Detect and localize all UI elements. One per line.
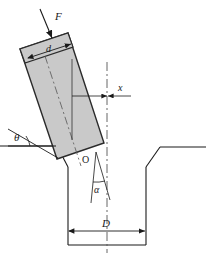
pivot-point-label: O xyxy=(82,154,89,165)
alpha-left-ray xyxy=(91,152,96,203)
incline-angle-label: θ xyxy=(14,131,20,143)
right-chamfer-line xyxy=(146,147,160,167)
D-dimension-annotation: D xyxy=(69,217,145,231)
figure-canvas: F d x θ O xyxy=(0,0,211,256)
groove-width-label: D xyxy=(101,217,110,229)
technical-diagram: F d x θ O xyxy=(0,0,211,256)
alpha-arc xyxy=(93,181,105,182)
offset-label: x xyxy=(117,82,123,93)
force-arrow xyxy=(40,9,52,38)
workpiece-outline xyxy=(0,146,206,245)
force-annotation: F xyxy=(40,9,62,38)
groove-half-angle-label: α xyxy=(94,184,100,195)
force-label: F xyxy=(54,10,62,22)
